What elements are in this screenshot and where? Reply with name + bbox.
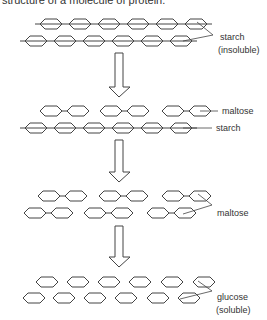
hexagon-glucose-unit: [38, 191, 60, 201]
hexagon-glucose-unit: [100, 106, 122, 116]
label-glucose: glucose: [217, 292, 248, 302]
hexagon-glucose-unit: [51, 208, 73, 218]
label-starch: starch: [220, 32, 245, 42]
down-arrow-icon: [109, 140, 130, 182]
hexagon-glucose-unit: [162, 106, 184, 116]
label-soluble: (soluble): [216, 305, 251, 315]
down-arrow-icon: [109, 226, 130, 267]
starch-digestion-diagram: starch (insoluble) maltose starch maltos…: [0, 0, 267, 320]
label-insoluble: (insoluble): [218, 45, 260, 55]
hexagon-glucose-unit: [99, 191, 121, 201]
hexagon-glucose-unit: [147, 293, 169, 303]
hexagon-glucose-unit: [84, 293, 106, 303]
hexagon-glucose-unit: [67, 277, 89, 287]
hexagon-glucose-unit: [23, 293, 45, 303]
hexagon-glucose-unit: [126, 191, 148, 201]
hexagon-glucose-unit: [129, 277, 151, 287]
hexagon-glucose-unit: [84, 208, 106, 218]
hexagon-glucose-unit: [40, 106, 62, 116]
hexagon-glucose-unit: [127, 106, 149, 116]
hexagon-glucose-unit: [36, 277, 58, 287]
hexagon-glucose-unit: [24, 208, 46, 218]
hexagon-glucose-unit: [65, 191, 87, 201]
hexagon-glucose-unit: [115, 293, 137, 303]
hexagon-glucose-unit: [161, 277, 183, 287]
pointer-lines: [180, 22, 218, 299]
hexagon-glucose-unit: [53, 293, 75, 303]
hexagon-glucose-unit: [147, 208, 169, 218]
label-starch-2: starch: [216, 123, 241, 133]
down-arrow-icon: [109, 53, 130, 97]
hexagon-glucose-unit: [162, 191, 184, 201]
label-maltose-2: maltose: [217, 208, 249, 218]
hexagon-glucose-unit: [111, 208, 133, 218]
hexagon-glucose-unit: [67, 106, 89, 116]
hexagon-glucose-unit: [98, 277, 120, 287]
label-maltose-1: maltose: [222, 106, 254, 116]
